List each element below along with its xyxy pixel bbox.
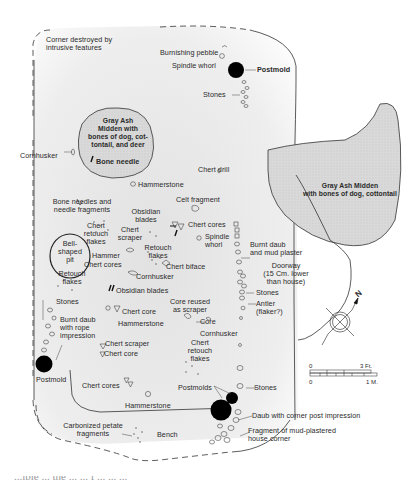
scale-bottom-start: 0 xyxy=(309,378,312,386)
label-doorway: Doorway (15 Cm. lower than house) xyxy=(256,262,316,286)
label-corner-destroyed: Corner destroyed by intrusive features xyxy=(46,36,112,52)
label-hammerstone-3: Hammerstone xyxy=(125,402,171,410)
postmold-left xyxy=(36,356,53,373)
label-cornhusker-right: Cornhusker xyxy=(200,330,238,338)
label-chert-biface: Chert biface xyxy=(166,263,205,271)
label-chert-retouch-2: Chert retouch flakes xyxy=(180,339,220,363)
label-burnt-daub-mud: Burnt daub and mud plaster xyxy=(250,241,302,257)
label-obsidian-blades-1: Obsidian blades xyxy=(124,208,168,224)
scale-bar xyxy=(310,370,377,376)
label-hammer: Hammer xyxy=(92,252,120,260)
label-hammerstone-1: Hammerstone xyxy=(138,181,184,189)
label-bone-needle: Bone needle xyxy=(96,158,139,166)
label-spindle-whorl-top: Spindle whorl xyxy=(172,62,216,70)
label-chert-cores-3: Chert cores xyxy=(82,382,120,390)
label-obsidian-blades-2: Obsidian blades xyxy=(116,287,168,295)
postmold-top xyxy=(228,62,244,78)
label-chert-cores-1: Chert cores xyxy=(188,221,226,229)
scale-top-end: 3 Ft. xyxy=(360,362,372,370)
label-postmolds: Postmolds xyxy=(178,384,212,392)
label-stones-bottom: Stones xyxy=(254,384,277,392)
label-chert-drill: Chert drill xyxy=(198,166,229,174)
label-celt-fragment: Celt fragment xyxy=(176,196,220,204)
label-hammerstone-2: Hammerstone xyxy=(118,320,164,328)
label-bell-pit: Bell- shaped pit xyxy=(52,240,88,264)
label-bench: Bench xyxy=(157,431,178,439)
label-core: Core xyxy=(200,318,216,326)
label-chert-cores-2: Chert cores xyxy=(84,261,122,269)
scale-bottom-end: 1 M. xyxy=(366,378,378,386)
label-core-reused: Core reused as scraper xyxy=(160,298,220,314)
label-burnishing-pebble: Burnishing pebble xyxy=(160,49,218,57)
label-antler: Antler (flaker?) xyxy=(256,300,283,316)
label-stones-top: Stones xyxy=(203,91,226,99)
label-carbonized-petate: Carbonized petate fragments xyxy=(58,422,128,438)
label-chert-core-2: Chert core xyxy=(104,350,138,358)
label-bone-needles: Bone needles and needle fragments xyxy=(44,198,120,214)
label-spindle-whorl-mid: Spindle whorl xyxy=(205,233,229,249)
label-chert-scraper-1: Chert scraper xyxy=(110,226,150,242)
label-retouch-flakes-1: Retouch flakes xyxy=(138,244,178,260)
label-postmold-left: Postmold xyxy=(36,376,66,384)
label-daub-corner: Daub with corner post impression xyxy=(252,412,360,420)
label-retouch-flakes-2: Retouch flakes xyxy=(52,270,92,286)
label-burnt-daub-rope: Burnt daub with rope impression xyxy=(60,316,96,340)
label-chert-core-1: Chert core xyxy=(122,308,156,316)
label-stones-left: Stones xyxy=(56,298,79,306)
postmold-large xyxy=(211,400,232,421)
label-right-midden: Gray Ash Midden with bones of dog, cotto… xyxy=(300,182,400,198)
label-chert-scraper-2: Chert scraper xyxy=(105,340,149,348)
label-postmold-top: Postmold xyxy=(257,66,290,74)
label-mud-corner: Fragment of mud-plastered house corner xyxy=(248,427,336,443)
label-cornhusker-left: Cornhusker xyxy=(20,152,58,160)
label-stones-door: Stones xyxy=(256,289,279,297)
scale-top-start: 0 xyxy=(309,362,312,370)
label-left-midden: Gray Ash Midden with bones of dog, cot- … xyxy=(80,117,156,149)
label-cornhusker-mid: Cornhusker xyxy=(136,273,174,281)
